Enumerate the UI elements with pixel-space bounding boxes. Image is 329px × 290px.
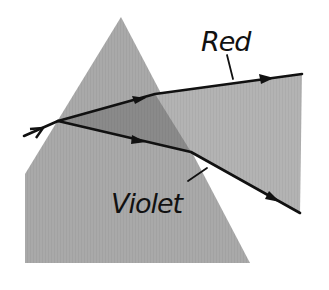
violet-label: Violet	[111, 188, 185, 219]
red-label: Red	[201, 26, 252, 57]
prism-dispersion-diagram: Red Violet	[0, 0, 329, 290]
red-label-leader	[227, 55, 233, 79]
